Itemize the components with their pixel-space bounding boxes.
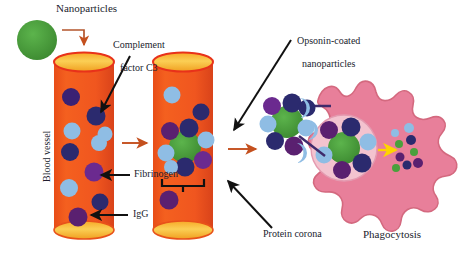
label-opsonin-coated-nanoparticles: Opsonin-coated nanoparticles bbox=[287, 24, 360, 80]
label-protein-corona: Protein corona bbox=[263, 228, 322, 239]
label-complement-line1: Complement bbox=[113, 39, 165, 50]
label-complement-line2: factor C3 bbox=[120, 62, 158, 73]
label-igg: IgG bbox=[133, 208, 149, 219]
figure-canvas: Nanoparticles Complement factor C3 Blood… bbox=[0, 0, 463, 257]
label-phagocytosis: Phagocytosis bbox=[363, 228, 421, 240]
label-complement-factor-c3: Complement factor C3 bbox=[103, 28, 165, 84]
free-nanoparticle-icon bbox=[17, 20, 57, 60]
label-nanoparticles: Nanoparticles bbox=[56, 2, 117, 14]
label-opsonin-line1: Opsonin-coated bbox=[297, 35, 360, 46]
label-fibrinogen: Fibrinogen bbox=[134, 168, 178, 179]
label-blood-vessel: Blood vessel bbox=[41, 131, 52, 182]
macrophage-cell bbox=[308, 81, 456, 231]
arrow-nanoparticle-to-vessel bbox=[62, 30, 84, 45]
diagram-svg bbox=[0, 0, 463, 257]
arrow-protein-corona bbox=[228, 181, 272, 228]
label-opsonin-line2: nanoparticles bbox=[302, 58, 355, 69]
